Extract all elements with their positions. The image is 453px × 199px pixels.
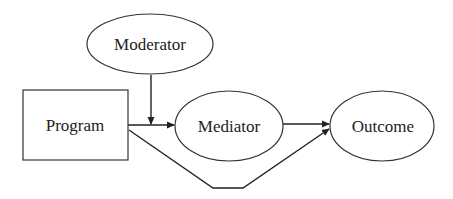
node-mediator: Mediator (175, 91, 283, 161)
diagram-canvas: Moderator Program Mediator Outcome (0, 0, 453, 199)
node-moderator: Moderator (87, 14, 213, 74)
node-outcome-label: Outcome (352, 117, 414, 136)
node-program-label: Program (46, 116, 105, 135)
node-outcome: Outcome (330, 91, 434, 161)
node-moderator-label: Moderator (114, 35, 186, 54)
node-program: Program (23, 90, 128, 160)
node-mediator-label: Mediator (198, 117, 261, 136)
